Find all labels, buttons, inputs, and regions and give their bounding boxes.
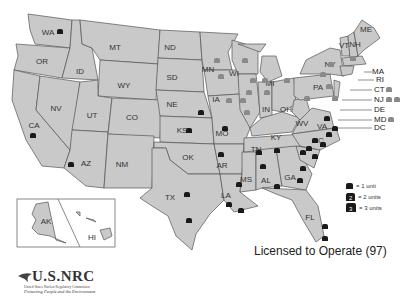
nrc-logo: U.S.NRC United States Nuclear Regulatory… <box>18 268 95 294</box>
svg-text:TX: TX <box>165 193 176 202</box>
reactor-icon <box>260 164 266 169</box>
svg-text:OR: OR <box>36 57 48 66</box>
svg-text:FL: FL <box>305 213 315 222</box>
state-ny <box>300 48 344 76</box>
reactor-icon <box>244 110 250 115</box>
svg-text:NV: NV <box>50 104 62 113</box>
legend-item-3-units: 3 = 3 units <box>346 202 382 213</box>
svg-text:NM: NM <box>116 160 129 169</box>
state-nj <box>334 80 340 98</box>
label-nj: NJ <box>374 95 384 104</box>
svg-text:ME: ME <box>360 25 372 34</box>
reactor-icon <box>262 78 268 83</box>
svg-text:CA: CA <box>28 121 40 130</box>
state-ms <box>240 152 256 192</box>
reactor-icon <box>284 78 290 83</box>
reactor-icon <box>186 218 192 223</box>
reactor-icon <box>388 117 394 122</box>
label-ri: RI <box>376 75 384 84</box>
svg-text:VA: VA <box>317 122 328 131</box>
reactor-icon <box>57 29 63 34</box>
reactor-icon <box>304 96 310 101</box>
legend-label: = 1 unit <box>356 183 376 189</box>
svg-text:NE: NE <box>166 100 177 109</box>
reactor-icon-3: 3 <box>346 203 356 212</box>
reactor-icon <box>242 58 248 63</box>
svg-text:LA: LA <box>221 191 231 200</box>
reactor-icon <box>306 146 312 151</box>
state-nm <box>104 134 154 188</box>
label-dc: DC <box>374 123 386 132</box>
logo-wordmark: U.S.NRC <box>18 268 95 285</box>
reactor-icon <box>226 202 232 207</box>
state-sd <box>156 58 204 92</box>
reactor-icon <box>394 97 400 102</box>
reactor-icon <box>326 132 332 137</box>
label-ct: CT <box>374 85 385 94</box>
licensed-caption: Licensed to Operate (97) <box>254 244 387 258</box>
logo-name: U.S.NRC <box>32 268 95 285</box>
reactor-icon <box>184 192 190 197</box>
svg-text:AR: AR <box>216 161 227 170</box>
state-fl <box>262 188 324 242</box>
reactor-icon <box>322 236 328 241</box>
reactor-icon <box>274 148 280 153</box>
reactor-icon <box>222 126 228 131</box>
reactor-icon <box>198 110 204 115</box>
legend-label: = 3 units <box>359 205 382 211</box>
reactor-icon <box>326 84 332 89</box>
reactor-icon <box>332 126 338 131</box>
reactor-icon <box>214 58 220 63</box>
state-ct <box>340 66 354 76</box>
ak-hi-inset <box>17 199 115 247</box>
reactor-icon <box>322 224 328 229</box>
svg-text:IA: IA <box>212 95 220 104</box>
svg-text:ID: ID <box>76 67 84 76</box>
reactor-icon <box>236 182 242 187</box>
svg-text:GA: GA <box>284 173 296 182</box>
reactor-icon <box>324 116 330 121</box>
reactor-icon <box>386 97 392 102</box>
reactor-icon <box>246 90 252 95</box>
svg-text:UT: UT <box>87 111 98 120</box>
svg-text:PA: PA <box>313 83 324 92</box>
reactor-icon <box>346 183 353 189</box>
svg-text:AL: AL <box>261 176 271 185</box>
reactor-icon <box>226 98 232 103</box>
svg-text:MN: MN <box>202 65 215 74</box>
svg-text:SD: SD <box>166 73 177 82</box>
svg-text:KS: KS <box>177 126 188 135</box>
reactor-icon <box>297 178 303 183</box>
reactor-icon <box>320 142 326 147</box>
reactor-icon <box>300 166 306 171</box>
reactor-icon <box>240 98 246 103</box>
reactor-icon <box>256 150 262 155</box>
svg-text:CO: CO <box>126 113 138 122</box>
reactor-icon <box>300 150 306 155</box>
reactor-icon-2: 2 <box>346 193 355 201</box>
reactor-icon <box>238 208 244 213</box>
state-wy <box>98 60 158 100</box>
northeast-labels: MA RI CT NJ DE MD DC <box>334 67 387 132</box>
svg-text:OH: OH <box>280 105 292 114</box>
reactor-icon <box>312 138 318 143</box>
svg-text:AZ: AZ <box>81 159 91 168</box>
svg-text:IN: IN <box>262 105 270 114</box>
legend-label: = 2 units <box>358 194 381 200</box>
reactor-icon <box>186 128 192 133</box>
svg-text:WA: WA <box>42 28 55 37</box>
svg-text:KY: KY <box>271 133 282 142</box>
reactor-icon <box>312 154 318 159</box>
eagle-icon <box>18 272 32 282</box>
legend-item-2-units: 2 = 2 units <box>346 191 382 202</box>
reactor-icon <box>250 78 256 83</box>
reactor-icon <box>218 152 224 157</box>
svg-text:WI: WI <box>229 69 239 78</box>
svg-text:WV: WV <box>296 119 310 128</box>
svg-text:MT: MT <box>109 43 121 52</box>
reactor-icon <box>320 72 326 77</box>
reactor-icon <box>328 62 334 67</box>
legend-item-1-unit: = 1 unit <box>346 180 382 191</box>
svg-text:AK: AK <box>41 217 52 226</box>
svg-text:VT: VT <box>339 41 349 50</box>
